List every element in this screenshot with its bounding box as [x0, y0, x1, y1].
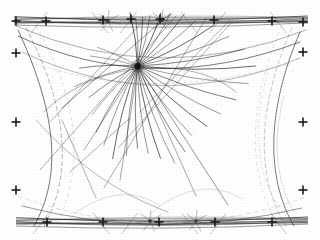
- vertex-halo: [131, 59, 144, 72]
- event-display-svg: [0, 0, 320, 240]
- event-display-canvas: [0, 0, 320, 240]
- canvas-background: [0, 0, 320, 240]
- primary-vertex-marker: [131, 59, 144, 72]
